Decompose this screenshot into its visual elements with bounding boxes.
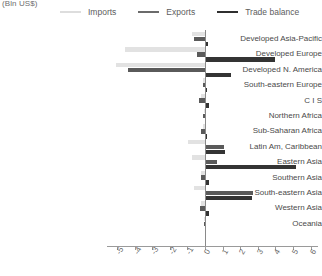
chart-row: Sub-Saharan Africa [0, 124, 322, 139]
bar-group [0, 201, 322, 216]
bar-exports [205, 145, 224, 149]
chart-row: Eastern Asia [0, 155, 322, 170]
bar-imports [188, 140, 205, 144]
x-axis: -5-4-3-2-10123456 [0, 246, 322, 276]
x-axis-tick-label: 2 [238, 248, 247, 256]
bar-group [0, 94, 322, 109]
legend-swatch-icon [138, 11, 159, 13]
x-axis-tick-label: -4 [133, 246, 143, 256]
bar-trade-balance [205, 57, 275, 61]
bar-trade-balance [205, 73, 231, 77]
bar-exports [197, 52, 205, 56]
bar-exports [205, 191, 253, 195]
bar-group [0, 186, 322, 201]
bar-group [0, 109, 322, 124]
chart-title: (Bln US$) [2, 0, 38, 8]
chart-legend: ImportsExportsTrade balance [60, 8, 299, 17]
x-axis-tick-label: 4 [273, 248, 282, 256]
chart-row: Southern Asia [0, 171, 322, 186]
chart-row: Northern Africa [0, 109, 322, 124]
bar-group [0, 63, 322, 78]
chart-row: Developed Asia-Pacific [0, 32, 322, 47]
bar-group [0, 32, 322, 47]
x-axis-tick-label: -1 [185, 246, 195, 256]
chart-row: Oceania [0, 217, 322, 232]
x-axis-tick-label: -2 [168, 246, 178, 256]
chart-row: South-eastern Europe [0, 78, 322, 93]
legend-label: Imports [88, 8, 116, 17]
zero-axis-line [205, 30, 206, 246]
bar-imports [116, 63, 205, 67]
bar-trade-balance [205, 196, 252, 200]
x-axis-tick-label: 6 [309, 248, 318, 256]
legend-item-trade-balance: Trade balance [217, 8, 299, 17]
x-axis-tick-label: -5 [115, 246, 125, 256]
bar-trade-balance [205, 150, 225, 154]
legend-item-exports: Exports [138, 8, 195, 17]
chart-row: South-eastern Asia [0, 186, 322, 201]
x-axis-tick-label: 3 [256, 248, 265, 256]
bar-group [0, 217, 322, 232]
bar-imports [194, 186, 205, 190]
legend-item-imports: Imports [60, 8, 116, 17]
plot-area: Developed Asia-PacificDeveloped EuropeDe… [0, 30, 322, 246]
bar-imports [125, 47, 205, 51]
chart-row: C I S [0, 94, 322, 109]
x-axis-tick-label: 1 [221, 248, 230, 256]
bar-group [0, 47, 322, 62]
legend-label: Exports [166, 8, 195, 17]
chart-row: Western Asia [0, 201, 322, 216]
bar-group [0, 155, 322, 170]
bar-group [0, 140, 322, 155]
bar-exports [205, 160, 217, 164]
chart-row: Developed N. America [0, 63, 322, 78]
x-axis-tick-label: -3 [150, 246, 160, 256]
bar-group [0, 78, 322, 93]
legend-label: Trade balance [245, 8, 299, 17]
bar-exports [128, 68, 205, 72]
legend-swatch-icon [60, 11, 81, 13]
chart-row: Developed Europe [0, 47, 322, 62]
trade-bar-chart: (Bln US$) ImportsExportsTrade balance De… [0, 0, 322, 276]
bar-imports [192, 155, 205, 159]
bar-group [0, 124, 322, 139]
bar-trade-balance [205, 165, 296, 169]
chart-row: Latin Am, Caribbean [0, 140, 322, 155]
bar-exports [194, 37, 205, 41]
x-axis-tick-label: 0 [203, 248, 212, 256]
bar-group [0, 171, 322, 186]
x-axis-tick-label: 5 [291, 248, 300, 256]
bar-imports [192, 32, 205, 36]
legend-swatch-icon [217, 11, 238, 13]
